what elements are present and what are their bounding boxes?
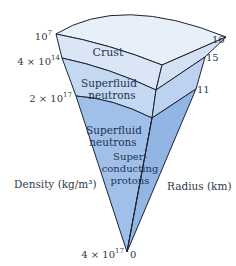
region-label-protons-1: Super- xyxy=(113,151,147,162)
radius-tick-15: 15 xyxy=(206,52,219,63)
density-tick-2: 4 × 1014 xyxy=(17,54,60,67)
neutron-star-diagram: Crust Superfluid neutrons Superfluid neu… xyxy=(0,0,236,266)
region-label-superfluid-inner-2: neutrons xyxy=(89,136,136,148)
region-label-superfluid-inner-1: Superfluid xyxy=(86,124,142,136)
density-tick-1: 107 xyxy=(35,29,52,42)
svg-text:4 × 1017: 4 × 1017 xyxy=(81,247,124,260)
radius-tick-16: 16 xyxy=(212,34,225,45)
svg-text:4 × 1014: 4 × 1014 xyxy=(17,54,60,67)
radius-axis-label: Radius (km) xyxy=(167,180,232,192)
core-front-face xyxy=(76,96,152,252)
region-label-superfluid-outer-2: neutrons xyxy=(88,89,135,101)
svg-text:107: 107 xyxy=(35,29,52,42)
svg-text:2 × 1017: 2 × 1017 xyxy=(29,91,72,104)
region-label-crust: Crust xyxy=(93,46,124,59)
region-label-protons-3: protons xyxy=(111,175,150,186)
region-label-protons-2: conducting xyxy=(102,163,159,174)
density-tick-3: 2 × 1017 xyxy=(29,91,72,104)
density-tick-4: 4 × 1017 xyxy=(81,247,124,260)
radius-tick-11: 11 xyxy=(197,84,210,95)
radius-tick-0: 0 xyxy=(130,249,136,260)
density-axis-label: Density (kg/m³) xyxy=(14,178,97,190)
region-label-superfluid-outer-1: Superfluid xyxy=(81,77,137,89)
